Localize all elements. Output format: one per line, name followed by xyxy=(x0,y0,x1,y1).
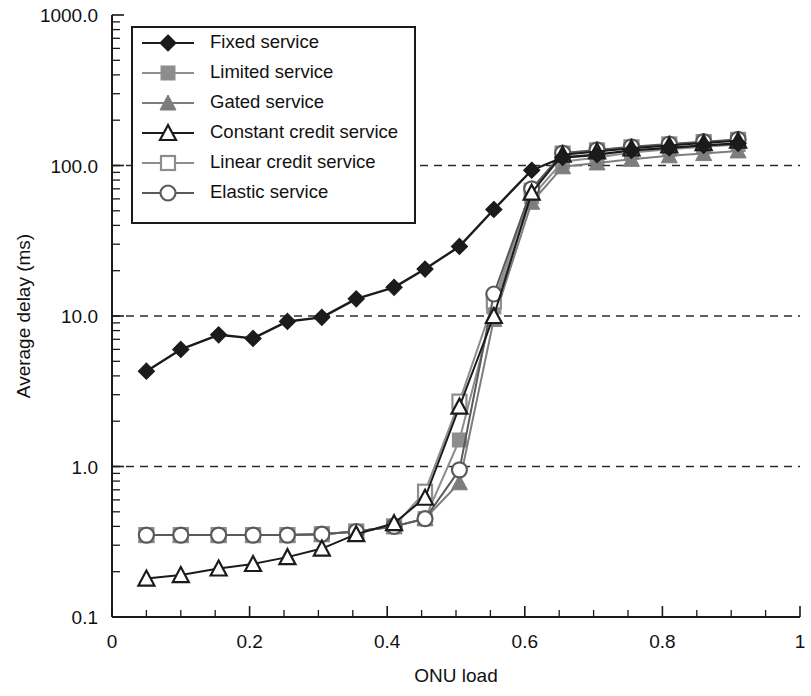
y-tick-label: 0.1 xyxy=(72,607,98,628)
x-tick-label: 0.2 xyxy=(236,631,262,652)
data-point-marker xyxy=(211,528,226,543)
data-point-marker xyxy=(138,363,154,379)
legend-item-label: Fixed service xyxy=(210,31,319,52)
data-point-marker xyxy=(173,528,188,543)
x-tick-label: 0 xyxy=(107,631,118,652)
data-point-marker xyxy=(173,341,189,357)
data-point-marker xyxy=(211,327,227,343)
data-point-marker xyxy=(161,66,175,80)
y-tick-labels: 0.11.010.0100.01000.0 xyxy=(40,5,98,628)
data-point-marker xyxy=(386,279,402,295)
x-tick-label: 0.6 xyxy=(512,631,538,652)
legend-item-label: Gated service xyxy=(210,91,324,112)
data-point-marker xyxy=(452,462,467,477)
data-point-marker xyxy=(245,330,261,346)
data-point-marker xyxy=(314,541,330,556)
legend-item-label: Constant credit service xyxy=(210,121,398,142)
data-point-marker xyxy=(418,511,433,526)
y-tick-label: 100.0 xyxy=(50,156,98,177)
chart-figure: 0.11.010.0100.01000.0 00.20.40.60.81 Fix… xyxy=(0,0,811,696)
data-point-marker xyxy=(348,291,364,307)
chart-canvas: 0.11.010.0100.01000.0 00.20.40.60.81 Fix… xyxy=(0,0,811,696)
data-point-marker xyxy=(314,309,330,325)
y-tick-label: 10.0 xyxy=(61,306,98,327)
legend-item-label: Elastic service xyxy=(210,181,328,202)
data-point-marker xyxy=(417,261,433,277)
legend-item-label: Linear credit service xyxy=(210,151,376,172)
x-tick-labels: 00.20.40.60.81 xyxy=(107,631,806,652)
x-axis-title: ONU load xyxy=(414,665,497,686)
y-axis-title: Average delay (ms) xyxy=(13,234,34,398)
data-point-marker xyxy=(161,156,175,170)
data-point-marker xyxy=(139,528,154,543)
chart-legend: Fixed serviceLimited serviceGated servic… xyxy=(132,27,415,223)
y-tick-label: 1000.0 xyxy=(40,5,98,26)
x-tick-label: 0.8 xyxy=(649,631,675,652)
data-point-marker xyxy=(280,528,295,543)
y-tick-label: 1.0 xyxy=(72,457,98,478)
legend-item-label: Limited service xyxy=(210,61,333,82)
x-tick-label: 0.4 xyxy=(374,631,401,652)
x-tick-label: 1 xyxy=(795,631,806,652)
data-point-marker xyxy=(161,186,176,201)
data-point-marker xyxy=(246,528,261,543)
